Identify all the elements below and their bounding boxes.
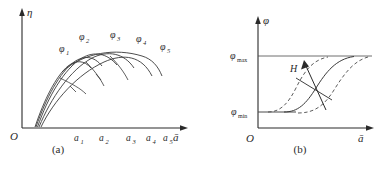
h-cross-line [296,78,332,100]
x-tick-label-4: a [146,133,151,143]
iso-tick-1 [70,86,76,92]
curve-label-phi-4: φ [136,33,142,44]
phi-max-label: φ [230,50,236,61]
panel-a-caption: (a) [0,143,158,155]
panel-a-x-axis-label-group: ā [173,131,179,143]
panel-b-y-max-label-group: φ max [230,50,247,63]
curve-phi-4 [39,54,134,127]
panel-a-x-axis-label: ā [173,131,179,143]
curve-label-phi-1: φ [59,43,65,54]
panel-b-y-min-label-group: φ min [231,106,247,119]
curve-sub-phi-1: 1 [66,49,69,56]
curve-label-phi-5: φ [160,41,166,52]
panel-b-caption: (b) [208,143,384,155]
curve-sub-phi-3: 3 [116,35,121,42]
curve-sub-phi-5: 5 [167,47,171,54]
panel-b: H φ φ max φ min O ā (b) [200,0,384,170]
iso-line-3 [110,56,128,80]
h-arrow-label: H [289,63,298,74]
panel-b-y-axis-label: φ [263,14,269,26]
panel-a-origin-label: O [10,130,18,142]
curve-left-dashed [268,57,328,112]
iso-line-1 [60,78,86,94]
y-axis-arrowhead [19,8,25,16]
curve-phi-3 [38,54,118,127]
curve-sub-phi-4: 4 [143,39,147,46]
x-axis-arrowhead [180,125,188,131]
panel-a: η O ā a 1 a 2 a 3 a 4 a 5 [0,0,200,170]
h-direction-arrowhead [301,60,309,70]
x-axis-arrowhead [366,125,374,131]
curve-label-phi-3: φ [110,29,116,40]
x-tick-label-5: a [163,133,168,143]
phi-max-subscript: max [237,57,247,63]
y-axis-arrowhead [255,16,261,24]
envelope-curve [62,52,162,76]
iso-tick-2 [96,74,101,80]
curve-label-phi-2: φ [79,31,85,42]
x-tick-label-1: a [74,133,79,143]
figure-container: η O ā a 1 a 2 a 3 a 4 a 5 [0,0,384,170]
phi-min-subscript: min [238,113,247,119]
curve-sub-phi-2: 2 [86,37,90,44]
x-tick-label-3: a [126,133,131,143]
x-tick-label-2: a [99,133,104,143]
phi-min-label: φ [231,106,237,117]
h-direction-arrow-shaft [306,66,326,110]
curve-phi-2 [36,57,102,127]
panel-a-y-axis-label: η [27,6,32,18]
